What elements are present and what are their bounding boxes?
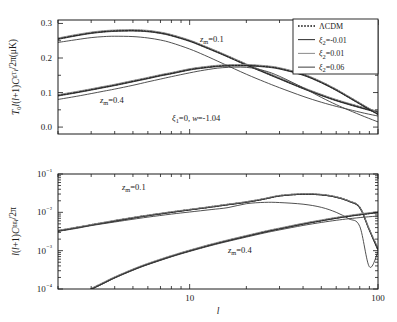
annot-params: ξ1=0, w=-1.04 [172,113,221,124]
yaxis-label-lower: l(l+1)Cggl/2π [8,207,22,256]
two-panel-cosmology-figure: 0.00.10.20.310⁻⁴10⁻³10⁻²10⁻¹10100lT0l(l+… [0,0,397,322]
annot-top-zm01: zm=0.1 [199,34,224,45]
xaxis-label: l [217,306,220,316]
ytick-label-upper-1: 0.1 [41,88,52,98]
annot-bottom-zm04: zm=0.4 [227,245,252,256]
yaxis-label-upper: T0l(l+1)CgTl/2π(μK) [8,39,22,115]
curve-lower-2 [58,194,378,248]
xtick-labels: 10100l [185,293,385,316]
annot-bottom-zm01: zm=0.1 [121,182,146,193]
xtick-label-1: 100 [371,293,385,303]
legend-label-0: ΛCDM [319,22,343,31]
ytick-label-lower-0: 10⁻⁴ [37,283,53,294]
ytick-label-lower-1: 10⁻³ [37,244,52,255]
ytick-labels-lower: 10⁻⁴10⁻³10⁻²10⁻¹ [37,168,53,294]
ytick-label-upper-2: 0.2 [41,53,52,63]
ytick-label-lower-2: 10⁻² [37,206,52,217]
yaxis-labels: T0l(l+1)CgTl/2π(μK)l(l+1)Cggl/2π [8,39,22,256]
xtick-label-0: 10 [185,293,195,303]
ytick-label-lower-3: 10⁻¹ [37,168,52,179]
legend: ΛCDMξ2=-0.01ξ2=0.01ξ2=0.06 [293,19,378,74]
annot-top-zm04: zm=0.4 [99,95,124,106]
figure-root: 0.00.10.20.310⁻⁴10⁻³10⁻²10⁻¹10100lT0l(l+… [0,0,397,322]
ytick-label-upper-3: 0.3 [41,18,53,28]
panel-lower: 10⁻⁴10⁻³10⁻²10⁻¹ [37,168,378,294]
axes-lower [58,174,378,289]
plot-frame-lower [58,174,378,289]
curves-lower [58,194,378,290]
ytick-label-upper-0: 0.0 [41,122,53,132]
curve-lower-3 [58,202,378,267]
ytick-labels-upper: 0.00.10.20.3 [41,18,53,132]
